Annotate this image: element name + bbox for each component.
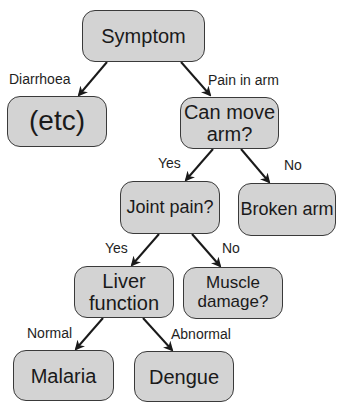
edge-label-pain-in-arm: Pain in arm: [208, 72, 279, 88]
edge-liver-malaria: [76, 318, 103, 349]
edge-canmove-joint: [186, 149, 213, 180]
edge-label-no-1: No: [284, 157, 302, 173]
node-malaria: Malaria: [13, 350, 114, 401]
node-symptom-label: Symptom: [101, 25, 185, 47]
node-joint-pain: Joint pain?: [120, 181, 220, 234]
edge-label-yes-2: Yes: [105, 240, 128, 256]
edge-label-abnormal: Abnormal: [171, 326, 231, 342]
node-muscle-damage: Muscle damage?: [183, 267, 283, 319]
edge-joint-muscle: [192, 234, 220, 266]
node-liver-function-line2: function: [89, 292, 159, 314]
node-can-move-arm: Can move arm?: [180, 97, 279, 149]
node-etc: (etc): [7, 96, 107, 147]
edge-symptom-etc: [79, 62, 107, 95]
node-can-move-arm-line2: arm?: [207, 123, 253, 145]
node-can-move-arm-line1: Can move: [184, 101, 275, 123]
node-joint-pain-label: Joint pain?: [126, 198, 213, 218]
node-dengue: Dengue: [134, 351, 234, 402]
edge-label-no-2: No: [222, 240, 240, 256]
node-muscle-damage-line1: Muscle: [206, 274, 260, 293]
edge-joint-liver: [132, 234, 159, 265]
edge-canmove-broken: [241, 149, 269, 182]
edge-liver-dengue: [143, 318, 172, 350]
edge-label-normal: Normal: [27, 325, 72, 341]
node-liver-function-line1: Liver: [102, 270, 145, 292]
node-symptom: Symptom: [82, 10, 205, 62]
edge-label-diarrhoea: Diarrhoea: [9, 71, 70, 87]
node-etc-label: (etc): [29, 106, 85, 137]
node-liver-function: Liver function: [74, 266, 174, 318]
node-malaria-label: Malaria: [31, 365, 97, 387]
edge-symptom-canmove: [181, 62, 210, 95]
edge-label-yes-1: Yes: [158, 155, 181, 171]
node-dengue-label: Dengue: [149, 366, 219, 388]
node-broken-arm-label: Broken arm: [240, 200, 333, 220]
node-broken-arm: Broken arm: [238, 183, 336, 236]
node-muscle-damage-line2: damage?: [198, 293, 269, 312]
